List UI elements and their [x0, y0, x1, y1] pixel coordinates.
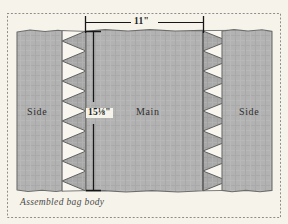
figure-caption: Assembled bag body	[20, 198, 104, 208]
dimension-label-height: 15⅛"	[86, 108, 113, 118]
panel-label-side-right: Side	[238, 107, 260, 117]
dimension-label-width: 11"	[132, 17, 151, 27]
diagram-figure: Side Main Side 11" 15⅛" Assembled bag bo…	[0, 0, 288, 224]
panel-label-main: Main	[135, 107, 161, 117]
seam-left	[62, 31, 86, 192]
panel-label-side-left: Side	[26, 107, 48, 117]
